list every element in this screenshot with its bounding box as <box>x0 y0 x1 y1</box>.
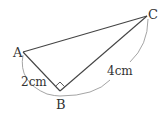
side-ac <box>23 16 147 52</box>
triangle-diagram: A B C 2cm 4cm <box>0 0 168 117</box>
side-bc <box>60 16 147 91</box>
measurement-ab: 2cm <box>21 75 47 89</box>
vertex-label-c: C <box>148 7 158 22</box>
right-angle-marker <box>56 82 65 87</box>
measurement-bc: 4cm <box>107 64 133 78</box>
arc-bc-upper <box>130 19 148 62</box>
vertex-label-b: B <box>56 97 66 112</box>
arc-bc <box>60 80 110 96</box>
vertex-label-a: A <box>12 45 23 60</box>
